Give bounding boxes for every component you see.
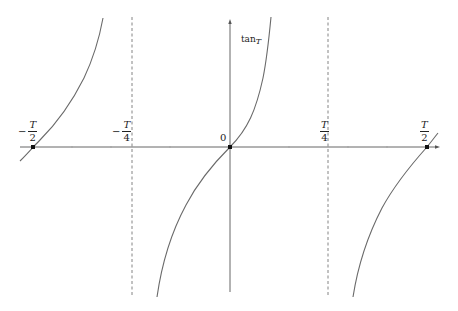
- zero-point-origin: [228, 145, 232, 149]
- y-axis-label: tanT: [241, 35, 261, 44]
- tan-plot: [0, 0, 458, 311]
- tick-label-neg-quarter-period: − T4: [112, 120, 131, 143]
- tick-label-pos-half-period: T2: [420, 120, 429, 143]
- tan-curve-center-branch: [157, 17, 271, 297]
- tick-label-pos-quarter-period: T4: [320, 120, 329, 143]
- zero-point-neg-half: [31, 145, 35, 149]
- x-axis-arrow-icon: [435, 145, 440, 148]
- tan-curve-right-branch: [353, 133, 438, 297]
- origin-label: 0: [220, 133, 226, 143]
- zero-point-pos-half: [425, 145, 429, 149]
- tick-label-neg-half-period: − T2: [18, 120, 37, 143]
- y-axis-arrow-icon: [228, 19, 231, 24]
